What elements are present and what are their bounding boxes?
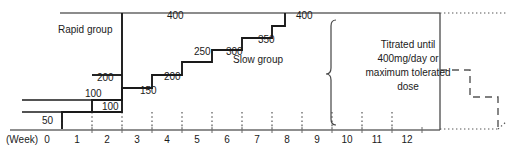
slow-dose-label-150: 150 xyxy=(140,85,157,96)
week-tick-0: 0 xyxy=(37,134,57,145)
half-week-dotted-lines xyxy=(62,112,392,129)
slow-dose-label-350: 350 xyxy=(258,34,275,45)
slow-dose-label-300: 300 xyxy=(226,46,243,57)
rapid-dose-label-400: 400 xyxy=(167,10,184,21)
week-tick-4: 4 xyxy=(157,134,177,145)
week-tick-11: 11 xyxy=(367,134,387,145)
dose-titration-diagram: Rapid group Slow group 50 100 200 400 10… xyxy=(0,0,508,154)
annotation-line-1: Titrated until xyxy=(348,38,468,52)
week-tick-10: 10 xyxy=(337,134,357,145)
week-tick-8: 8 xyxy=(277,134,297,145)
slow-dose-label-400: 400 xyxy=(296,10,313,21)
week-tick-12: 12 xyxy=(397,134,417,145)
week-axis-label: (Week) xyxy=(6,134,38,145)
annotation-brace xyxy=(326,20,336,125)
titration-annotation: Titrated until 400mg/day or maximum tole… xyxy=(348,38,468,94)
week-tick-1: 1 xyxy=(67,134,87,145)
week-tick-3: 3 xyxy=(127,134,147,145)
rapid-dose-label-200: 200 xyxy=(97,72,114,83)
slow-dose-label-100: 100 xyxy=(102,101,119,112)
week-tick-9: 9 xyxy=(307,134,327,145)
rapid-dose-label-100: 100 xyxy=(85,88,102,99)
week-tick-2: 2 xyxy=(97,134,117,145)
annotation-line-4: dose xyxy=(348,80,468,94)
slow-dose-label-250: 250 xyxy=(194,46,211,57)
annotation-line-2: 400mg/day or xyxy=(348,52,468,66)
rapid-dose-label-50: 50 xyxy=(42,115,53,126)
week-tick-5: 5 xyxy=(187,134,207,145)
rapid-group-label: Rapid group xyxy=(58,24,112,35)
week-tick-7: 7 xyxy=(247,134,267,145)
slow-dose-label-200: 200 xyxy=(164,71,181,82)
annotation-line-3: maximum tolerated xyxy=(348,66,468,80)
week-tick-6: 6 xyxy=(217,134,237,145)
